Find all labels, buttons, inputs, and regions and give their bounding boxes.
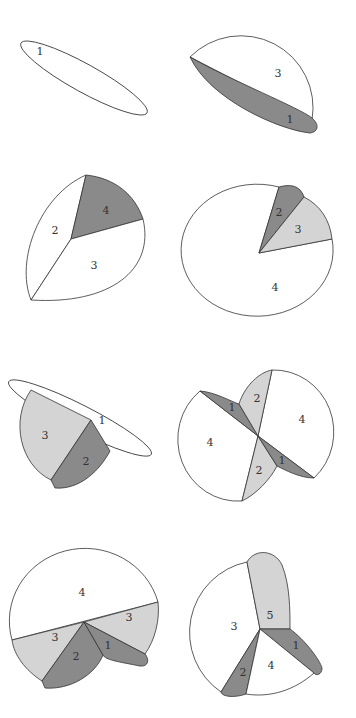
label: 4	[272, 281, 279, 294]
label: 4	[103, 204, 110, 217]
diagram-canvas: 1 3 1 2 4 3 2 3 4 1 3 2	[0, 0, 356, 718]
label: 3	[126, 611, 133, 624]
label: 2	[276, 206, 283, 219]
label: 2	[256, 464, 263, 477]
label: 4	[207, 436, 214, 449]
label: 4	[268, 659, 275, 672]
panel-7: 4 3 3 2 1	[9, 548, 158, 688]
label: 1	[287, 113, 294, 126]
label: 2	[52, 224, 59, 237]
label: 4	[299, 413, 306, 426]
panel-5: 1 3 2	[3, 370, 157, 488]
label: 2	[83, 455, 90, 468]
label: 1	[99, 414, 106, 427]
label: 4	[79, 586, 86, 599]
panel-8: 5 3 1 2 4	[190, 553, 322, 697]
label: 1	[279, 454, 286, 467]
label: 2	[73, 650, 80, 663]
label: 1	[37, 45, 44, 58]
panel-1: 1	[14, 31, 154, 125]
label: 5	[267, 609, 274, 622]
label: 3	[295, 223, 302, 236]
label: 1	[105, 639, 112, 652]
label: 3	[91, 259, 98, 272]
panel-3: 2 4 3	[26, 175, 145, 300]
label: 1	[229, 401, 236, 414]
label: 1	[293, 639, 300, 652]
panel-4: 2 3 4	[181, 184, 333, 316]
label: 2	[254, 392, 261, 405]
label: 3	[42, 429, 49, 442]
panel-6: 1 2 4 4 2 1	[178, 370, 334, 501]
region-1	[14, 31, 154, 125]
panel-2: 3 1	[190, 36, 317, 133]
label: 3	[231, 620, 238, 633]
label: 3	[52, 631, 59, 644]
label: 2	[240, 666, 247, 679]
label: 3	[275, 67, 282, 80]
